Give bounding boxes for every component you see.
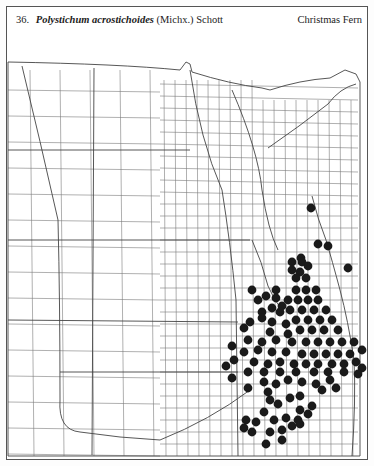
occurrence-dot: [310, 350, 319, 359]
occurrence-dot: [250, 358, 259, 367]
occurrence-dot: [260, 378, 269, 387]
occurrence-dot: [274, 400, 283, 409]
occurrence-dot: [272, 294, 281, 303]
occurrence-dot: [314, 338, 323, 347]
occurrence-dot: [288, 258, 297, 267]
occurrence-dot: [304, 296, 313, 305]
occurrence-dot: [272, 336, 281, 345]
occurrence-dot: [328, 360, 337, 369]
occurrence-dot: [334, 326, 343, 335]
occurrence-dot: [292, 316, 301, 325]
occurrence-dot: [340, 368, 349, 377]
occurrence-dot: [282, 348, 291, 357]
occurrence-dot: [358, 346, 367, 355]
occurrence-dot: [288, 338, 297, 347]
occurrence-dot: [298, 306, 307, 315]
occurrence-dot: [276, 358, 285, 367]
occurrence-dot: [312, 286, 321, 295]
occurrence-dot: [296, 326, 305, 335]
occurrence-dot: [307, 204, 316, 213]
occurrence-dot: [242, 416, 251, 425]
occurrence-dot: [262, 292, 271, 301]
occurrence-dot: [314, 240, 323, 249]
occurrence-dot: [222, 362, 231, 371]
occurrence-dot: [326, 338, 335, 347]
occurrence-dot: [248, 286, 257, 295]
occurrence-dot: [296, 392, 305, 401]
occurrence-dot: [260, 408, 269, 417]
occurrence-dot: [304, 316, 313, 325]
occurrence-dot: [276, 308, 285, 317]
occurrence-dot: [244, 336, 253, 345]
occurrence-dot: [288, 266, 297, 275]
occurrence-dot: [338, 338, 347, 347]
occurrence-dot: [344, 264, 353, 273]
occurrence-dot: [314, 360, 323, 369]
occurrence-dot: [314, 296, 323, 305]
occurrence-dot: [262, 440, 271, 449]
occurrence-dot: [304, 410, 313, 419]
occurrence-dot: [316, 316, 325, 325]
occurrence-dot: [324, 368, 333, 377]
occurrence-dot: [310, 368, 319, 377]
occurrence-dot: [292, 286, 301, 295]
occurrence-dot: [310, 306, 319, 315]
occurrence-dot: [272, 380, 281, 389]
occurrence-dot: [284, 330, 293, 339]
occurrence-dot: [264, 388, 273, 397]
occurrence-dot: [308, 326, 317, 335]
occurrence-dot: [268, 304, 277, 313]
occurrence-dot: [298, 350, 307, 359]
occurrence-dot: [230, 356, 239, 365]
occurrence-dot: [284, 376, 293, 385]
occurrence-dot: [354, 370, 363, 379]
occurrence-dot: [304, 262, 313, 271]
occurrence-dot: [272, 286, 281, 295]
occurrence-dot: [288, 422, 297, 431]
occurrence-dot: [228, 342, 237, 351]
occurrence-dot: [308, 402, 317, 411]
occurrence-dot: [244, 368, 253, 377]
occurrence-dot: [302, 360, 311, 369]
occurrence-dot: [340, 360, 349, 369]
occurrence-dot: [290, 360, 299, 369]
occurrence-dot: [278, 426, 287, 435]
atlas-page: 36. Polystichum acrostichoides (Michx.) …: [0, 0, 374, 466]
occurrence-dot: [334, 350, 343, 359]
occurrence-dot: [296, 420, 305, 429]
occurrence-dot: [278, 436, 287, 445]
occurrence-dot: [332, 384, 341, 393]
occurrence-dot: [298, 378, 307, 387]
occurrence-dot: [324, 242, 333, 251]
occurrence-dot: [322, 350, 331, 359]
occurrence-dot: [282, 414, 291, 423]
distribution-map: [0, 0, 374, 466]
occurrence-dot: [252, 418, 261, 427]
occurrence-dot: [248, 428, 257, 437]
occurrence-dot: [302, 338, 311, 347]
occurrence-dot: [302, 286, 311, 295]
occurrence-dot: [326, 376, 335, 385]
occurrence-dot: [328, 316, 337, 325]
occurrence-dot: [286, 394, 295, 403]
occurrence-dot: [258, 314, 267, 323]
occurrence-dot: [294, 296, 303, 305]
occurrence-dot: [322, 306, 331, 315]
occurrence-dot: [266, 328, 275, 337]
occurrence-dot: [346, 350, 355, 359]
occurrence-dot: [350, 338, 359, 347]
occurrence-dot: [268, 348, 277, 357]
occurrence-dot: [286, 306, 295, 315]
occurrence-dot: [292, 368, 301, 377]
occurrence-dot: [276, 368, 285, 377]
occurrence-dot: [240, 424, 249, 433]
occurrence-dot: [240, 348, 249, 357]
occurrence-dot: [260, 368, 269, 377]
occurrence-dot: [244, 384, 253, 393]
occurrence-dot: [254, 346, 263, 355]
occurrence-dot: [266, 396, 275, 405]
occurrence-dot: [292, 274, 301, 283]
occurrence-dot: [320, 326, 329, 335]
occurrence-dot: [318, 386, 327, 395]
occurrence-dot: [228, 374, 237, 383]
